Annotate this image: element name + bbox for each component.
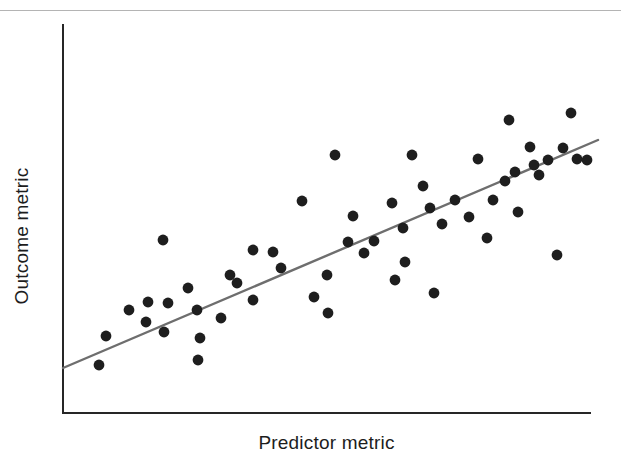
scatter-point — [582, 155, 593, 166]
scatter-point — [525, 142, 536, 153]
scatter-point — [297, 196, 308, 207]
scatter-point — [359, 248, 370, 259]
x-axis-label: Predictor metric — [62, 432, 591, 454]
scatter-point — [566, 108, 577, 119]
scatter-point — [309, 292, 320, 303]
scatter-plot-figure: Outcome metric Predictor metric — [0, 0, 621, 472]
scatter-point — [124, 305, 135, 316]
scatter-point — [464, 212, 475, 223]
scatter-point — [534, 170, 545, 181]
scatter-point — [248, 245, 259, 256]
scatter-point — [482, 233, 493, 244]
scatter-point — [387, 198, 398, 209]
scatter-point — [158, 235, 169, 246]
scatter-point — [400, 257, 411, 268]
scatter-point — [450, 195, 461, 206]
scatter-point — [398, 223, 409, 234]
scatter-point — [193, 355, 204, 366]
scatter-point — [390, 275, 401, 286]
scatter-point — [369, 236, 380, 247]
scatter-point — [407, 150, 418, 161]
scatter-point — [276, 263, 287, 274]
scatter-point — [572, 154, 583, 165]
scatter-points-group — [94, 108, 593, 371]
scatter-point — [101, 331, 112, 342]
scatter-point — [500, 176, 511, 187]
scatter-point — [192, 305, 203, 316]
scatter-point — [343, 237, 354, 248]
scatter-point — [268, 247, 279, 258]
scatter-point — [552, 250, 563, 261]
scatter-point — [429, 288, 440, 299]
scatter-point — [216, 313, 227, 324]
scatter-point — [543, 155, 554, 166]
scatter-point — [195, 333, 206, 344]
scatter-point — [232, 278, 243, 289]
scatter-point — [348, 211, 359, 222]
scatter-point — [183, 283, 194, 294]
scatter-point — [94, 360, 105, 371]
scatter-point — [488, 195, 499, 206]
scatter-point — [141, 317, 152, 328]
scatter-point — [322, 270, 333, 281]
scatter-point — [504, 115, 515, 126]
scatter-point — [143, 297, 154, 308]
scatter-point — [558, 143, 569, 154]
scatter-point — [437, 219, 448, 230]
scatter-point — [513, 207, 524, 218]
scatter-point — [163, 298, 174, 309]
scatter-point — [473, 154, 484, 165]
scatter-point — [330, 150, 341, 161]
scatter-point — [510, 167, 521, 178]
scatter-point — [418, 181, 429, 192]
plot-canvas — [0, 0, 621, 472]
scatter-point — [159, 327, 170, 338]
axis-lines — [62, 24, 591, 414]
scatter-point — [425, 203, 436, 214]
scatter-point — [529, 160, 540, 171]
scatter-point — [248, 295, 259, 306]
scatter-point — [323, 308, 334, 319]
